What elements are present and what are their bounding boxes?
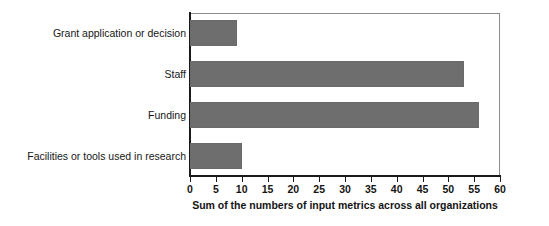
x-axis-tick-mark bbox=[216, 177, 217, 182]
x-axis-tick-mark bbox=[190, 177, 191, 182]
x-axis-tick-mark bbox=[345, 177, 346, 182]
category-label: Staff bbox=[0, 61, 186, 87]
category-label: Funding bbox=[0, 102, 186, 128]
x-axis-tick-mark bbox=[371, 177, 372, 182]
x-axis-tick-mark bbox=[423, 177, 424, 182]
category-label: Facilities or tools used in research bbox=[0, 143, 186, 169]
x-axis-tick-mark bbox=[268, 177, 269, 182]
bar[interactable] bbox=[190, 20, 237, 46]
bar[interactable] bbox=[190, 143, 242, 169]
bar[interactable] bbox=[190, 61, 464, 87]
x-axis-tick-mark bbox=[319, 177, 320, 182]
bar[interactable] bbox=[190, 102, 479, 128]
x-axis-tick-mark bbox=[500, 177, 501, 182]
x-axis-tick-label: 60 bbox=[485, 183, 515, 195]
bar-chart-figure: Grant application or decisionStaffFundin… bbox=[0, 0, 549, 226]
x-axis-tick-mark bbox=[242, 177, 243, 182]
x-axis-tick-mark bbox=[397, 177, 398, 182]
x-axis-tick-mark bbox=[448, 177, 449, 182]
category-label: Grant application or decision bbox=[0, 20, 186, 46]
x-axis-tick-mark bbox=[293, 177, 294, 182]
x-axis-tick-mark bbox=[474, 177, 475, 182]
x-axis-title: Sum of the numbers of input metrics acro… bbox=[190, 199, 500, 211]
